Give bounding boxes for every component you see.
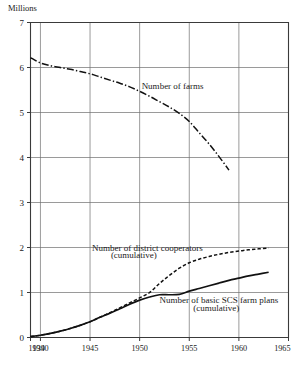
line-chart: Millions 01234567 1939194019451950195519… <box>0 0 298 369</box>
x-tick-label-1960: 1960 <box>231 344 247 353</box>
y-tick-label-0: 0 <box>20 333 25 343</box>
chart-background <box>0 0 298 369</box>
y-tick-label-7: 7 <box>20 18 25 28</box>
annotation-number-of-farms: Number of farms <box>142 81 204 91</box>
y-tick-label-2: 2 <box>20 243 25 253</box>
y-tick-label-3: 3 <box>20 198 25 208</box>
annotation-scs-farm-plans-line2: (cumulative) <box>193 303 239 313</box>
x-tick-label-1955: 1955 <box>181 344 197 353</box>
x-tick-label-1945: 1945 <box>82 344 98 353</box>
x-tick-label-1950: 1950 <box>131 344 147 353</box>
y-axis-title: Millions <box>8 3 37 13</box>
y-tick-label-4: 4 <box>20 153 25 163</box>
x-tick-label-1940: 1940 <box>32 344 48 353</box>
y-tick-label-1: 1 <box>20 288 25 298</box>
annotation-district-cooperators-line2: (cumulative) <box>111 250 157 260</box>
y-tick-label-6: 6 <box>20 63 25 73</box>
y-axis-title-text: Millions <box>8 3 37 13</box>
chart-container: Millions 01234567 1939194019451950195519… <box>0 0 298 369</box>
y-tick-label-5: 5 <box>20 108 25 118</box>
x-tick-label-1965: 1965 <box>274 344 290 353</box>
